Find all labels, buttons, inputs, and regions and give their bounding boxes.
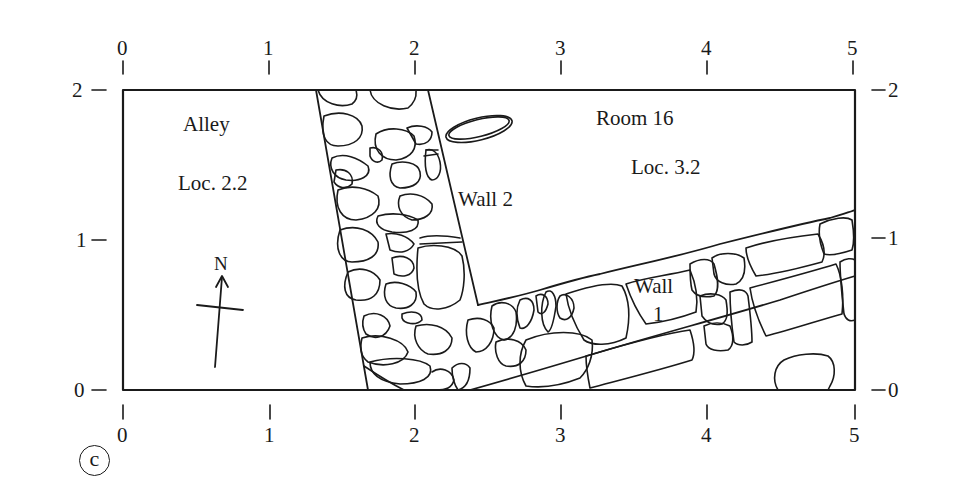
oval-artifact: [443, 110, 514, 148]
label-room: Room 16: [596, 108, 674, 129]
bottom-tick-label-4: 4: [701, 425, 712, 446]
bottom-tick-label-1: 1: [264, 425, 275, 446]
left-tick-label-0: 0: [74, 380, 85, 401]
north-arrow-icon: [197, 276, 243, 367]
right-axis-ticks: [872, 90, 885, 390]
bottom-tick-label-0: 0: [117, 425, 128, 446]
top-tick-label-3: 3: [555, 38, 566, 59]
label-wall-1-line2: 1: [653, 304, 664, 325]
label-wall-1-line1: Wall: [634, 276, 673, 297]
right-tick-label-0: 0: [888, 380, 899, 401]
label-wall-2: Wall 2: [458, 189, 513, 210]
top-axis-ticks: [123, 61, 853, 74]
label-room-locus: Loc. 3.2: [631, 157, 700, 178]
label-alley: Alley: [183, 114, 230, 135]
top-tick-label-4: 4: [701, 38, 712, 59]
top-tick-label-1: 1: [263, 38, 274, 59]
left-tick-label-1: 1: [76, 230, 87, 251]
bottom-tick-label-3: 3: [555, 425, 566, 446]
label-alley-locus: Loc. 2.2: [178, 173, 247, 194]
bottom-axis-ticks: [123, 405, 855, 419]
panel-label: c: [79, 445, 110, 476]
top-tick-label-2: 2: [409, 38, 420, 59]
left-axis-ticks: [92, 90, 106, 390]
left-tick-label-2: 2: [72, 80, 83, 101]
right-tick-label-1: 1: [888, 228, 899, 249]
wall-2-stones: [318, 90, 464, 390]
loose-stone: [775, 354, 835, 390]
bottom-tick-label-2: 2: [409, 425, 420, 446]
top-tick-label-5: 5: [847, 38, 858, 59]
right-tick-label-2: 2: [888, 80, 899, 101]
site-plan-drawing: [0, 0, 956, 504]
top-tick-label-0: 0: [117, 38, 128, 59]
wall-2-outline: [316, 90, 478, 390]
bottom-tick-label-5: 5: [849, 425, 860, 446]
north-label: N: [214, 254, 228, 273]
